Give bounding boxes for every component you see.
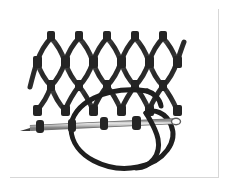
illustration-canvas: Netting needle passing through knotted d…: [0, 0, 234, 190]
mesh-knot: [33, 105, 42, 116]
mesh-knot: [159, 80, 167, 91]
needle-bead: [100, 117, 108, 130]
mesh-knot: [145, 56, 154, 68]
mesh-knot: [131, 31, 139, 41]
needle-eye-icon: [172, 118, 181, 124]
mesh-knot: [89, 105, 98, 116]
mesh-knot: [159, 31, 167, 41]
mesh-knot: [61, 56, 70, 68]
mesh-knot: [89, 56, 98, 68]
mesh-knot: [33, 56, 42, 68]
mesh-knot: [117, 105, 126, 116]
needle-bead: [36, 120, 44, 133]
mesh-knot: [47, 31, 55, 41]
needle-bead: [68, 119, 76, 132]
mesh-knot: [47, 80, 55, 91]
illustration-svg: Netting needle passing through knotted d…: [8, 7, 217, 176]
mesh-knot: [173, 105, 182, 116]
mesh-knot: [75, 31, 83, 41]
mesh-knot: [103, 31, 111, 41]
needle-bead: [132, 116, 141, 130]
mesh-knot: [173, 56, 182, 68]
net-needle-illustration: Netting needle passing through knotted d…: [8, 7, 217, 176]
mesh-knot: [103, 80, 111, 91]
mesh-knot: [61, 105, 70, 116]
mesh-knot: [75, 80, 83, 91]
mesh-knot: [117, 56, 126, 68]
